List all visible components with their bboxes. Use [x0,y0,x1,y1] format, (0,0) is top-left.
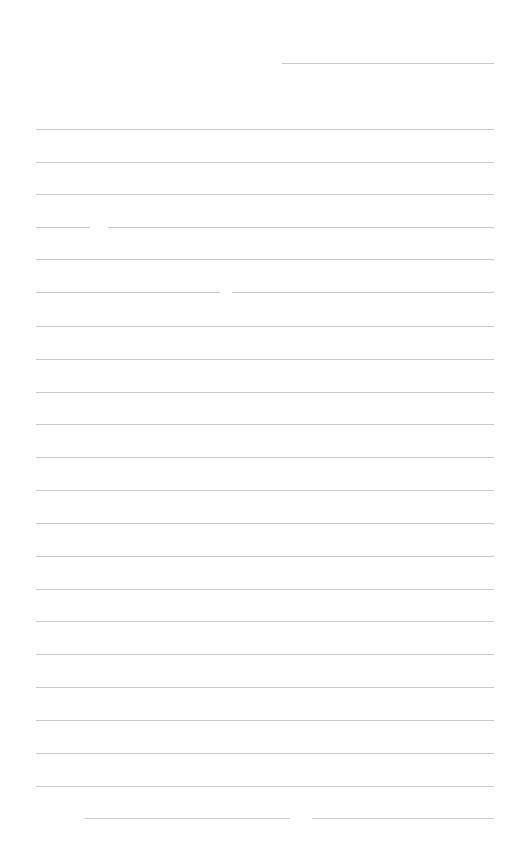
ruled-line [36,194,494,195]
ruled-line [36,687,494,688]
ruled-line [108,227,494,228]
ruled-line [36,359,494,360]
ruled-line [36,292,220,293]
ruled-line [36,490,494,491]
ruled-line [36,162,494,163]
lined-paper-page [0,0,512,846]
ruled-line [85,818,290,819]
ruled-line [312,818,494,819]
ruled-line [36,259,494,260]
ruled-line [36,786,494,787]
ruled-line [36,457,494,458]
ruled-line [36,227,90,228]
ruled-line [36,589,494,590]
header-rule-line [282,63,494,64]
ruled-line [36,621,494,622]
ruled-line [36,753,494,754]
ruled-line [36,654,494,655]
ruled-line [232,292,494,293]
ruled-line [36,556,494,557]
ruled-line [36,326,494,327]
ruled-line [36,720,494,721]
ruled-line [36,523,494,524]
ruled-line [36,424,494,425]
ruled-line [36,392,494,393]
ruled-line [36,129,494,130]
